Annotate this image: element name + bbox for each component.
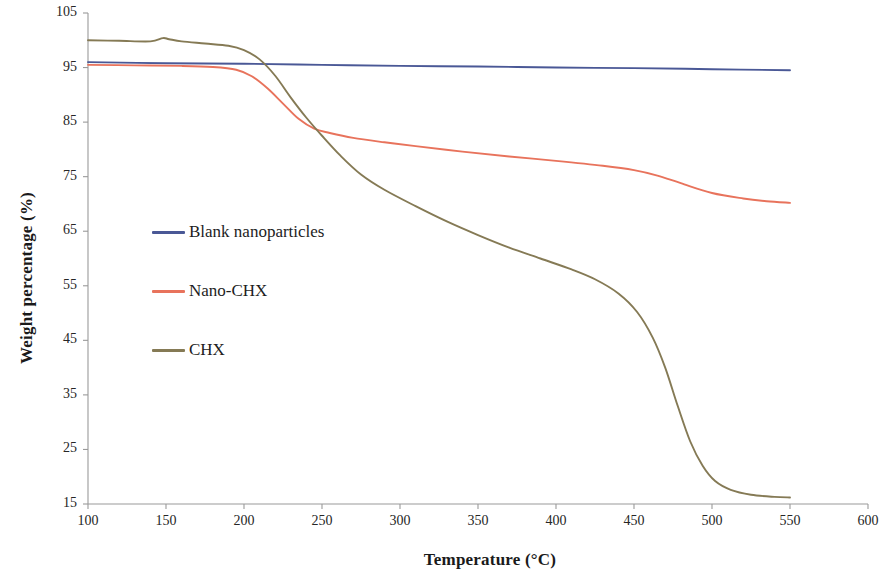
series-line-2 — [88, 38, 790, 497]
legend-item-1[interactable]: Nano-CHX — [152, 281, 267, 301]
legend-color-swatch — [152, 349, 185, 352]
legend-label: Blank nanoparticles — [189, 222, 325, 242]
legend-color-swatch — [152, 231, 185, 234]
tga-chart-figure: Weight percentage (%) Temperature (°C) 1… — [0, 0, 890, 579]
legend-label: CHX — [189, 340, 225, 360]
axis-lines — [88, 13, 868, 504]
legend-item-2[interactable]: CHX — [152, 340, 225, 360]
plot-area — [0, 0, 890, 579]
legend-item-0[interactable]: Blank nanoparticles — [152, 222, 325, 242]
series-line-1 — [88, 65, 790, 203]
legend-color-swatch — [152, 290, 185, 293]
axis-tick-marks — [83, 13, 868, 509]
data-series-group — [88, 38, 790, 497]
legend-label: Nano-CHX — [189, 281, 267, 301]
